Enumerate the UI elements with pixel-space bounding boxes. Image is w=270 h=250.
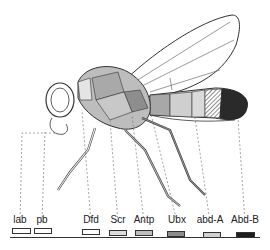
gene-box-dfd (82, 229, 100, 235)
gene-label-abd-a: abd-A (190, 214, 230, 225)
gene-box-pb (34, 228, 52, 234)
fly-illustration (0, 0, 270, 250)
gene-box-lab (12, 228, 31, 234)
gene-label-pb: pb (22, 214, 62, 225)
gene-box-ubx (167, 231, 185, 237)
gene-box-antp (135, 230, 153, 236)
hox-diagram: lab pb Dfd Scr Antp Ubx abd-A Abd-B (0, 0, 270, 250)
gene-box-scr (109, 230, 127, 236)
chromosome-baseline (10, 237, 260, 238)
gene-box-abd-b (236, 232, 255, 238)
gene-box-abd-a (203, 232, 221, 238)
gene-label-abd-b: Abd-B (225, 214, 265, 225)
